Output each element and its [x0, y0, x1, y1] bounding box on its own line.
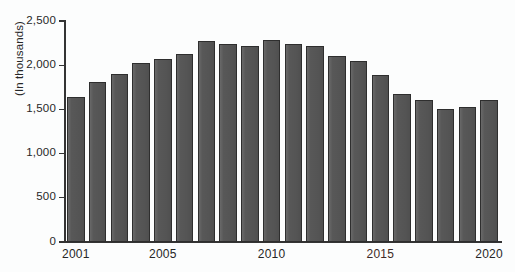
bar — [176, 54, 193, 242]
bar — [67, 97, 84, 242]
x-axis-tick-label: 2001 — [62, 247, 90, 261]
bar — [198, 41, 215, 242]
bar — [132, 63, 149, 242]
bar — [415, 100, 432, 242]
bar — [285, 44, 302, 242]
bar — [154, 59, 171, 242]
y-axis-tick-label: 1,000 — [0, 146, 56, 158]
bar — [480, 100, 497, 242]
bar — [306, 46, 323, 242]
x-axis-tick-label: 2015 — [366, 247, 394, 261]
bar — [241, 46, 258, 242]
bar — [350, 61, 367, 242]
y-axis-tick-label: 1,500 — [0, 102, 56, 114]
bar — [111, 74, 128, 242]
bar — [263, 40, 280, 242]
x-axis-tick-label: 2010 — [258, 247, 286, 261]
bar — [328, 56, 345, 242]
bar — [393, 94, 410, 242]
chart-page: (In thousands) 05001,0001,5002,0002,500 … — [0, 0, 515, 272]
bar — [219, 44, 236, 242]
bar — [89, 82, 106, 242]
x-axis-tick-label: 2020 — [475, 247, 503, 261]
y-axis-tick-label: 500 — [0, 190, 56, 202]
y-axis-tick-label: 0 — [0, 235, 56, 247]
bar — [372, 75, 389, 242]
bar — [459, 107, 476, 242]
bar — [437, 109, 454, 242]
y-axis-tick-label: 2,500 — [0, 14, 56, 26]
plot-area — [65, 21, 500, 242]
y-axis-tick-label: 2,000 — [0, 58, 56, 70]
x-axis-tick-label: 2005 — [149, 247, 177, 261]
